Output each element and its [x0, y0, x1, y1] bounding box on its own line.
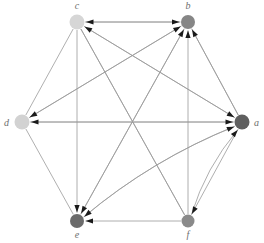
- arrowhead-f-to-a: [231, 130, 238, 137]
- node-d[interactable]: [15, 115, 30, 130]
- node-c[interactable]: [70, 15, 85, 30]
- node-label-a: a: [254, 117, 259, 128]
- node-label-d: d: [4, 117, 10, 128]
- arrowhead-f-to-e: [86, 218, 94, 223]
- arrowhead-c-to-a: [227, 111, 235, 117]
- node-e[interactable]: [70, 214, 84, 228]
- arrowhead-a-to-d: [31, 119, 39, 124]
- arrowhead-e-to-a: [226, 127, 234, 132]
- edge-e-to-a: [83, 127, 234, 218]
- arrowheads-layer: [30, 19, 238, 223]
- graph-canvas: abcdef: [0, 0, 264, 243]
- node-b[interactable]: [181, 15, 195, 29]
- edge-a-to-f: [192, 129, 238, 214]
- node-label-c: c: [75, 0, 80, 11]
- arrowhead-a-to-b: [192, 29, 198, 37]
- arrowhead-c-to-b: [172, 19, 180, 24]
- edges-layer: [26, 22, 238, 221]
- edge-a-to-e: [84, 126, 235, 217]
- node-a[interactable]: [235, 115, 250, 130]
- directed-graph-svg: abcdef: [0, 0, 264, 243]
- arrowhead-d-to-a: [226, 119, 234, 124]
- node-label-f: f: [187, 229, 191, 240]
- arrowhead-c-to-e: [74, 205, 79, 213]
- arrowhead-b-to-d: [30, 111, 38, 117]
- node-label-b: b: [186, 0, 191, 11]
- node-f[interactable]: [182, 215, 195, 228]
- arrowhead-b-to-c: [86, 19, 94, 24]
- arrowhead-e-to-b: [178, 29, 184, 37]
- arrowhead-b-to-e: [81, 206, 87, 214]
- arrowhead-d-to-b: [173, 26, 181, 32]
- node-label-e: e: [75, 229, 80, 240]
- edge-a-to-b: [192, 29, 238, 114]
- edge-d-to-e: [26, 129, 73, 214]
- arrowhead-a-to-f: [192, 206, 198, 214]
- arrowhead-f-to-b: [185, 31, 190, 39]
- edge-d-to-c: [26, 29, 73, 115]
- arrowhead-a-to-c: [85, 27, 93, 33]
